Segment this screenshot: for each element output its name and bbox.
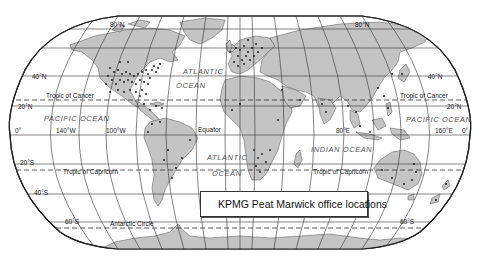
label-atlantic-north-1: ATLANTIC [182, 67, 224, 76]
label-80n: 80°N [110, 21, 125, 28]
legend-label: KPMG Peat Marwick office locations [218, 198, 387, 210]
legend: KPMG Peat Marwick office locations [200, 191, 368, 217]
label-140w: 140°W [56, 127, 76, 134]
world-map: 80°N 80°N 40°N 40°N 20°N 20°N 0° 0° 20°S… [0, 0, 480, 265]
label-atlantic-south-1: ATLANTIC [206, 153, 248, 162]
label-equator: Equator [198, 126, 222, 134]
label-20n-left: 20°N [18, 103, 33, 110]
label-60s-right: 60°S [400, 218, 415, 225]
label-40s: 40°S [34, 189, 49, 196]
label-atlantic-north-2: OCEAN [176, 81, 206, 90]
label-160e: 160°E [435, 127, 453, 134]
label-80e: 80°E [336, 127, 351, 134]
label-100w: 100°W [106, 127, 126, 134]
label-tropic-capricorn-left: Tropic of Capricorn [63, 168, 118, 176]
label-equator-left: 0° [15, 127, 22, 134]
label-tropic-cancer-right: Tropic of Cancer [400, 92, 449, 100]
label-20n-right: 20°N [447, 103, 462, 110]
label-60s-left: 60°S [65, 218, 80, 225]
label-20s: 20°S [20, 159, 35, 166]
label-atlantic-south-2: OCEAN [212, 169, 242, 178]
label-pacific-left: PACIFIC OCEAN [44, 114, 110, 123]
label-indian-ocean: INDIAN OCEAN [311, 145, 372, 154]
label-80n-right: 80°N [355, 21, 370, 28]
label-tropic-cancer-left: Tropic of Cancer [46, 92, 95, 100]
label-pacific-right: PACIFIC OCEAN [406, 115, 472, 124]
label-equator-right: 0° [462, 127, 469, 134]
label-tropic-capricorn-right: Tropic of Capricorn [313, 168, 368, 176]
label-40n-right: 40°N [428, 73, 443, 80]
label-40n-left: 40°N [32, 73, 47, 80]
label-antarctic-circle: Antarctic Circle [110, 220, 154, 227]
